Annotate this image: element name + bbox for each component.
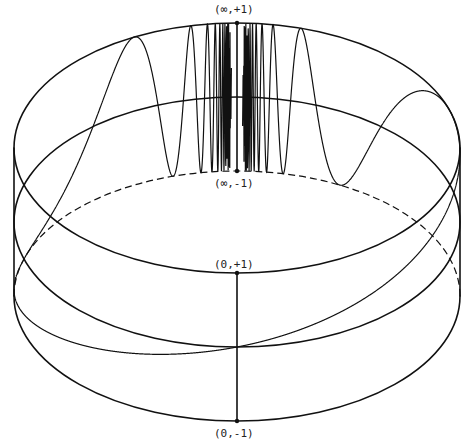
endpoint-dot [235, 271, 239, 275]
endpoint-dot [235, 419, 239, 423]
cylinder-sine-figure: (∞,+1) (∞,-1) (0,+1) (0,-1) [0, 0, 470, 442]
sine-curve-right-branch [237, 23, 460, 347]
label-zero-minus-one: (0,-1) [214, 427, 254, 440]
endpoint-dot [235, 169, 239, 173]
sine-curve-left-branch [14, 23, 237, 354]
label-zero-plus-one: (0,+1) [214, 258, 254, 271]
label-infinity-minus-one: (∞,-1) [214, 177, 254, 190]
label-infinity-plus-one: (∞,+1) [214, 3, 254, 16]
endpoint-dot [235, 21, 239, 25]
axis-markers [235, 21, 239, 423]
